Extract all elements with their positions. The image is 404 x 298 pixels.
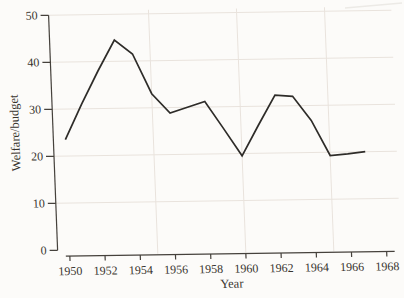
x-tick-label: 1966 <box>340 260 365 274</box>
y-axis-line <box>49 15 58 250</box>
v-gridline <box>236 8 245 252</box>
h-gridline <box>52 104 395 109</box>
x-tick-label: 1962 <box>269 261 294 275</box>
scan-artifact <box>345 3 402 8</box>
h-gridline <box>56 198 399 203</box>
x-tick-label: 1950 <box>58 264 83 278</box>
v-gridline <box>148 10 157 254</box>
y-tick-label: 0 <box>40 243 47 257</box>
x-axis-line <box>66 251 395 256</box>
y-tick-label: 30 <box>29 102 42 116</box>
x-tick-label: 1956 <box>164 262 189 276</box>
x-tick-label: 1964 <box>305 260 330 274</box>
h-gridline <box>49 10 392 15</box>
y-axis <box>41 15 58 250</box>
x-axis-title: Year <box>220 277 244 291</box>
line-chart: 0102030405019501952195419561958196019621… <box>0 0 404 298</box>
y-tick-label: 40 <box>27 55 40 69</box>
y-tick-label: 20 <box>31 149 44 163</box>
chart-figure: 0102030405019501952195419561958196019621… <box>0 0 404 298</box>
x-tick-labels: 1950195219541956195819601962196419661968 <box>58 259 399 278</box>
y-tick-labels: 01020304050 <box>25 8 47 257</box>
y-tick-label: 10 <box>33 196 46 210</box>
plot-area: 0102030405019501952195419561958196019621… <box>3 3 402 294</box>
y-tick-label: 50 <box>25 8 38 22</box>
y-axis-title: Welfare/budget <box>7 94 24 171</box>
x-tick-label: 1952 <box>93 263 118 277</box>
x-tick-label: 1960 <box>234 261 259 275</box>
x-tick-label: 1958 <box>199 262 224 276</box>
x-tick-label: 1954 <box>129 263 154 277</box>
h-gridline <box>50 57 393 62</box>
v-gridline <box>324 7 333 251</box>
x-tick-label: 1968 <box>375 259 400 273</box>
data-line <box>62 36 366 159</box>
